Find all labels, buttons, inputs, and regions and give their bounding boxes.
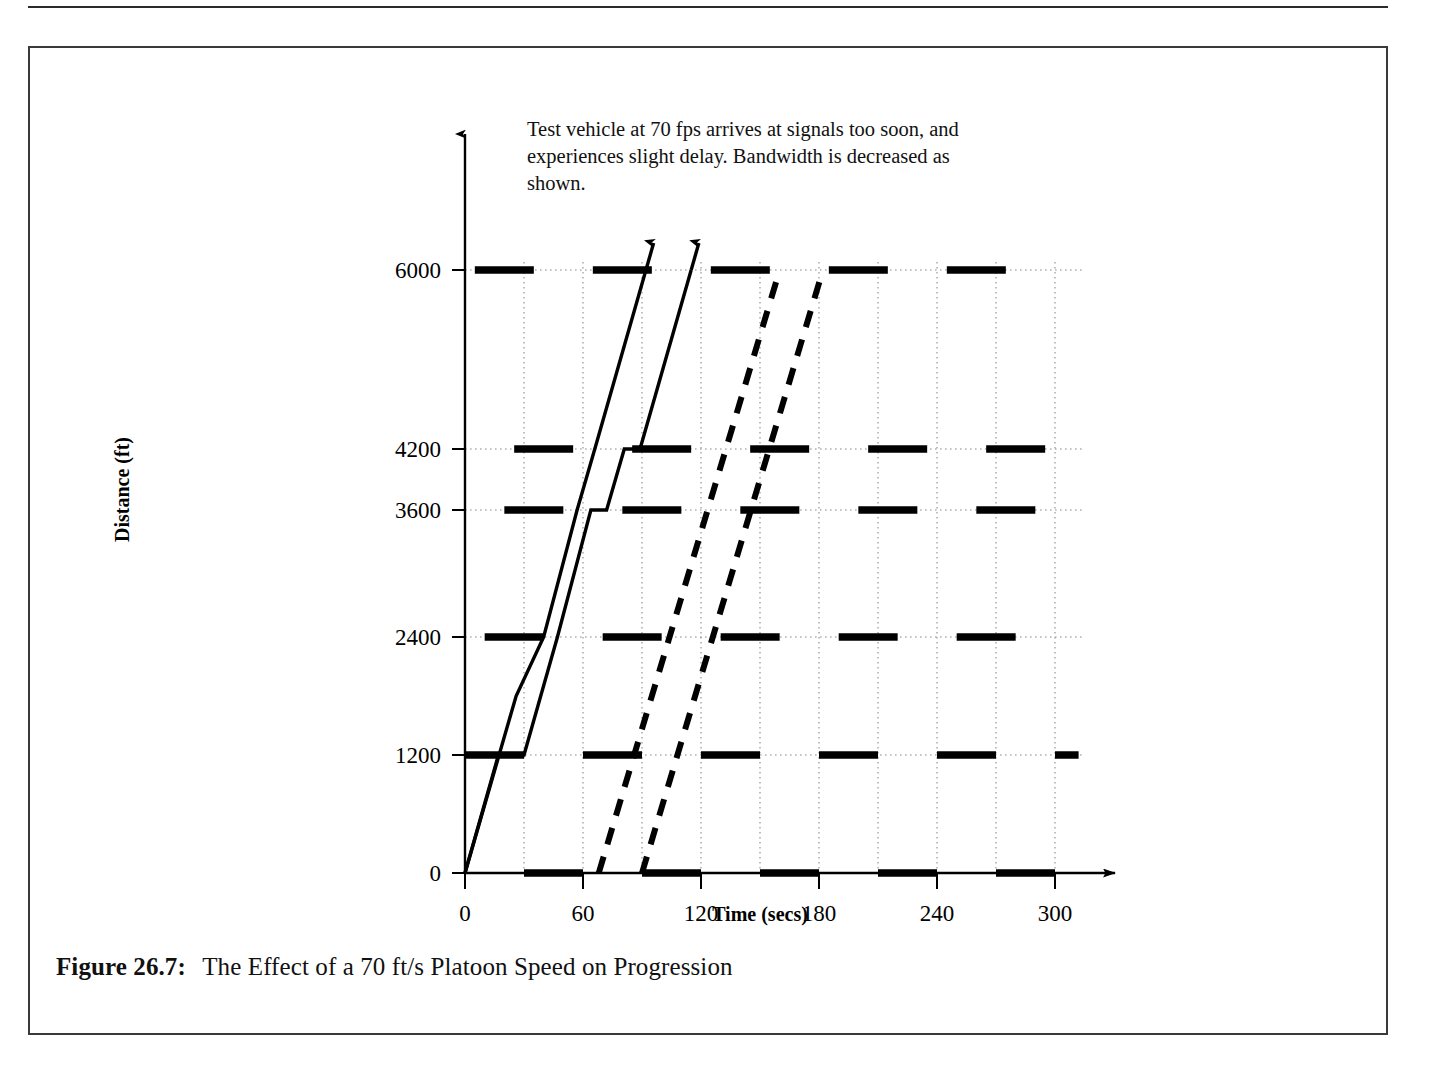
y-tick-label: 0 (430, 861, 442, 886)
bandwidth-rear (642, 270, 823, 873)
x-tick-label: 60 (572, 901, 595, 926)
vehicle-trajectories (465, 243, 699, 873)
trajectory-arrowhead (691, 243, 699, 270)
bandwidth-front (599, 270, 780, 873)
signal-red-bars (465, 270, 1079, 873)
y-tick-label: 2400 (395, 625, 441, 650)
x-tick-label: 240 (920, 901, 955, 926)
figure-caption: Figure 26.7: The Effect of a 70 ft/s Pla… (56, 953, 1356, 981)
bandwidth-lines (599, 270, 823, 873)
figure-box: Test vehicle at 70 fps arrives at signal… (28, 46, 1388, 1035)
x-tick-label: 120 (684, 901, 719, 926)
axis-lines (465, 134, 1115, 873)
y-tick-label: 6000 (395, 258, 441, 283)
test-vehicle-leading (465, 270, 691, 873)
trajectory-arrowhead (646, 243, 654, 270)
y-axis-ticks: 012002400360042006000 (395, 258, 465, 886)
plot-area: Test vehicle at 70 fps arrives at signal… (30, 48, 1390, 953)
time-space-diagram: 012002400360042006000 060120180240300 (30, 48, 1390, 953)
y-tick-label: 1200 (395, 743, 441, 768)
y-tick-label: 4200 (395, 437, 441, 462)
figure-caption-label: Figure 26.7: (56, 953, 186, 980)
page-top-rule (28, 6, 1388, 8)
test-vehicle-trailing (465, 270, 646, 873)
x-tick-label: 0 (459, 901, 471, 926)
x-axis-ticks: 060120180240300 (459, 873, 1072, 926)
x-tick-label: 180 (802, 901, 837, 926)
grid-vertical (524, 262, 1055, 873)
x-tick-label: 300 (1038, 901, 1073, 926)
y-tick-label: 3600 (395, 498, 441, 523)
figure-caption-text: The Effect of a 70 ft/s Platoon Speed on… (202, 953, 732, 980)
